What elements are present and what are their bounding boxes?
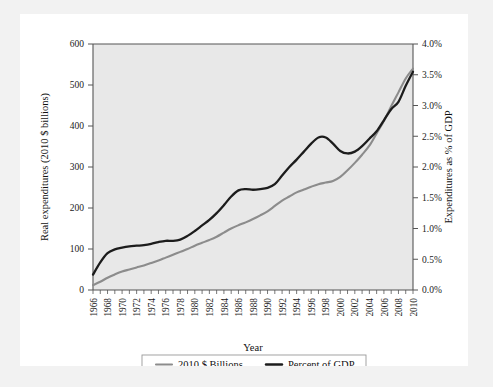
right-tick-label: 2.5%	[422, 132, 442, 142]
left-axis-title: Real expenditures (2010 $ billions)	[39, 92, 51, 241]
legend-label-billions[interactable]: 2010 $ Billions	[178, 359, 243, 366]
chart-legend[interactable]: 2010 $ BillionsPercent of GDP	[142, 355, 366, 366]
x-tick-label: 1970	[118, 298, 128, 317]
right-tick-label: 1.0%	[422, 224, 442, 234]
x-tick-label: 1978	[176, 298, 186, 317]
left-tick-label: 400	[70, 121, 85, 131]
left-tick-label: 200	[70, 203, 85, 213]
x-tick-label: 2006	[380, 298, 390, 317]
left-tick-label: 0	[79, 285, 84, 295]
x-tick-label: 1994	[292, 298, 302, 317]
x-tick-label: 2004	[365, 298, 375, 317]
x-axis-ticks: 1966196819701972197419761978198019821984…	[89, 290, 419, 317]
x-tick-label: 1980	[190, 298, 200, 317]
right-axis-ticks: 0.0%0.5%1.0%1.5%2.0%2.5%3.0%3.5%4.0%	[413, 39, 442, 295]
x-tick-label: 1986	[234, 298, 244, 317]
plot-area-background	[93, 44, 413, 290]
right-tick-label: 3.5%	[422, 70, 442, 80]
x-tick-label: 1968	[103, 298, 113, 317]
x-tick-label: 1966	[89, 298, 99, 317]
right-tick-label: 0.0%	[422, 285, 442, 295]
left-tick-label: 100	[70, 244, 85, 254]
x-tick-label: 1998	[321, 298, 331, 317]
right-tick-label: 3.0%	[422, 101, 442, 111]
left-tick-label: 600	[70, 39, 85, 49]
x-tick-label: 1990	[263, 298, 273, 317]
figure-card: 0100200300400500600 0.0%0.5%1.0%1.5%2.0%…	[20, 14, 468, 366]
x-axis-title: Year	[243, 342, 263, 353]
left-tick-label: 300	[70, 162, 85, 172]
x-tick-label: 1974	[147, 298, 157, 317]
x-tick-label: 2000	[336, 298, 346, 317]
x-tick-label: 1988	[249, 298, 259, 317]
page-background: 0100200300400500600 0.0%0.5%1.0%1.5%2.0%…	[0, 0, 493, 387]
x-tick-label: 2008	[394, 298, 404, 317]
left-tick-label: 500	[70, 80, 85, 90]
x-tick-label: 1982	[205, 298, 215, 317]
x-tick-label: 2002	[350, 298, 360, 317]
right-tick-label: 4.0%	[422, 39, 442, 49]
x-tick-label: 2010	[409, 298, 419, 317]
x-tick-label: 1976	[161, 298, 171, 317]
expenditures-line-chart: 0100200300400500600 0.0%0.5%1.0%1.5%2.0%…	[20, 14, 468, 366]
x-tick-label: 1984	[220, 298, 230, 317]
left-axis-ticks: 0100200300400500600	[70, 39, 93, 295]
legend-label-percent-of-gdp[interactable]: Percent of GDP	[288, 359, 355, 366]
right-tick-label: 2.0%	[422, 162, 442, 172]
x-tick-label: 1996	[307, 298, 317, 317]
right-axis-title: Expenditures as % of GDP	[443, 110, 454, 223]
right-tick-label: 1.5%	[422, 193, 442, 203]
x-tick-label: 1972	[132, 298, 142, 317]
right-tick-label: 0.5%	[422, 255, 442, 265]
x-tick-label: 1992	[278, 298, 288, 317]
plot-area	[93, 44, 413, 290]
